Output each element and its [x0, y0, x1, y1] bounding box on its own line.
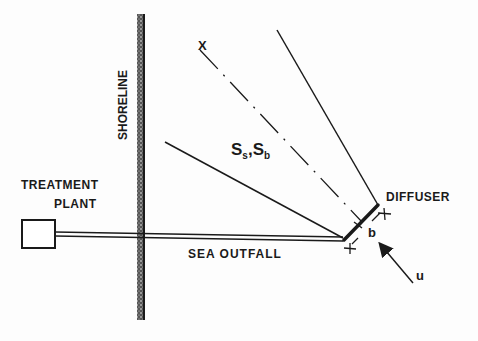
current-label: u — [416, 268, 424, 283]
treatment-plant-box — [22, 220, 55, 248]
shoreline-label: SHORELINE — [116, 70, 130, 140]
sea-outfall-pipe — [55, 232, 343, 241]
x-axis-label: X — [198, 38, 207, 53]
plume-boundary-upper — [277, 30, 378, 205]
treatment-plant-label-1: TREATMENT — [21, 178, 99, 192]
diffuser-label: DIFFUSER — [386, 190, 450, 204]
diagram-svg: SHORELINE TREATMENT PLANT SEA OUTFALL DI… — [0, 0, 478, 341]
sea-outfall-label: SEA OUTFALL — [188, 247, 282, 261]
dilution-label: Ss,Sb — [231, 140, 270, 161]
current-arrow — [386, 251, 413, 283]
shoreline — [137, 14, 144, 320]
treatment-plant-label-2: PLANT — [54, 197, 97, 211]
diffuser-length-label: b — [368, 225, 376, 240]
outfall-diagram: SHORELINE TREATMENT PLANT SEA OUTFALL DI… — [0, 0, 478, 341]
